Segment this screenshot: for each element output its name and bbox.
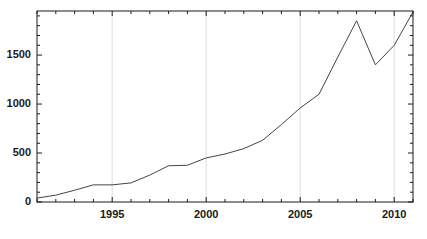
x-tick-label-1995: 1995 xyxy=(82,208,142,220)
y-tick-label-0: 0 xyxy=(0,195,31,207)
chart-figure: 050010001500 1995200020052010 xyxy=(0,0,427,239)
y-tick-label-1500: 1500 xyxy=(0,48,31,60)
y-tick-label-1000: 1000 xyxy=(0,97,31,109)
plot-background xyxy=(37,11,413,202)
x-tick-label-2005: 2005 xyxy=(270,208,330,220)
x-tick-label-2010: 2010 xyxy=(364,208,424,220)
line-chart-plot xyxy=(0,0,427,239)
x-tick-label-2000: 2000 xyxy=(176,208,236,220)
y-tick-label-500: 500 xyxy=(0,146,31,158)
